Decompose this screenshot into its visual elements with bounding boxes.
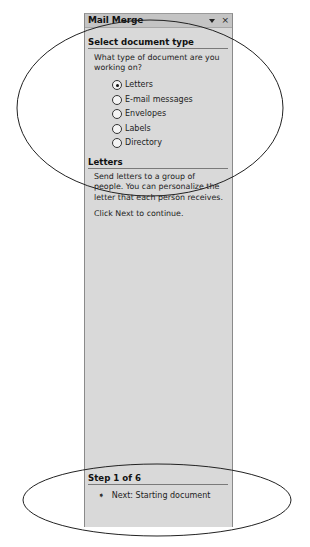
radio-label: Envelopes bbox=[125, 109, 166, 119]
task-pane-title: Mail Merge bbox=[88, 14, 143, 27]
radio-option-envelopes[interactable]: Envelopes bbox=[112, 107, 193, 122]
radio-label: E-mail messages bbox=[125, 95, 193, 105]
radio-button[interactable] bbox=[112, 95, 122, 105]
radio-option-letters[interactable]: Letters bbox=[112, 78, 193, 93]
next-link-label: Next: Starting document bbox=[112, 491, 211, 501]
titlebar-controls: × bbox=[209, 14, 229, 27]
dropdown-arrow-icon[interactable] bbox=[209, 19, 215, 23]
screenshot-stage: Mail Merge × Select document type What t… bbox=[0, 0, 310, 547]
radio-button-checked[interactable] bbox=[112, 80, 122, 90]
next-arrow-icon: ➧ bbox=[98, 491, 105, 501]
radio-label: Labels bbox=[125, 124, 151, 134]
task-pane-titlebar: Mail Merge × bbox=[85, 14, 232, 28]
radio-label: Directory bbox=[125, 138, 162, 148]
radio-button[interactable] bbox=[112, 138, 122, 148]
radio-option-email-messages[interactable]: E-mail messages bbox=[112, 93, 193, 108]
radio-button[interactable] bbox=[112, 109, 122, 119]
document-type-question: What type of document are you working on… bbox=[94, 53, 226, 74]
close-icon[interactable]: × bbox=[221, 14, 229, 27]
select-document-type-heading: Select document type bbox=[88, 36, 228, 49]
radio-button[interactable] bbox=[112, 124, 122, 134]
radio-option-labels[interactable]: Labels bbox=[112, 122, 193, 137]
radio-label: Letters bbox=[125, 80, 153, 90]
mail-merge-task-pane: Mail Merge × Select document type What t… bbox=[84, 13, 233, 527]
step-indicator-heading: Step 1 of 6 bbox=[88, 472, 228, 485]
letters-description: Send letters to a group of people. You c… bbox=[94, 172, 226, 203]
next-starting-document-link[interactable]: ➧ Next: Starting document bbox=[98, 491, 210, 501]
radio-option-directory[interactable]: Directory bbox=[112, 136, 193, 151]
letters-heading: Letters bbox=[88, 156, 228, 169]
document-type-radio-group: Letters E-mail messages Envelopes Labels… bbox=[112, 78, 193, 151]
click-next-instruction: Click Next to continue. bbox=[94, 209, 226, 219]
